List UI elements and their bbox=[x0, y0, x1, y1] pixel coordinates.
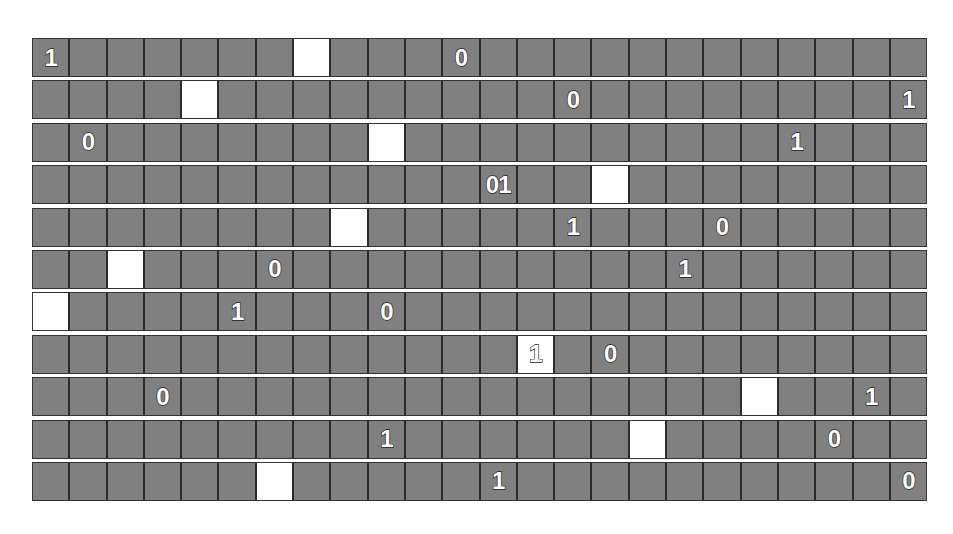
board-cell[interactable] bbox=[816, 166, 853, 203]
board-cell[interactable] bbox=[518, 378, 555, 415]
board-cell[interactable] bbox=[779, 421, 816, 458]
board-cell[interactable]: 0 bbox=[145, 378, 182, 415]
board-cell[interactable] bbox=[33, 336, 70, 373]
board-cell[interactable] bbox=[331, 39, 368, 76]
board-cell[interactable] bbox=[331, 336, 368, 373]
board-cell[interactable]: 0 bbox=[592, 336, 629, 373]
board-cell[interactable] bbox=[331, 421, 368, 458]
board-cell[interactable] bbox=[294, 421, 331, 458]
board-cell[interactable] bbox=[481, 124, 518, 161]
board-cell[interactable] bbox=[182, 39, 219, 76]
board-cell[interactable] bbox=[219, 166, 256, 203]
board-cell[interactable] bbox=[145, 39, 182, 76]
board-cell[interactable] bbox=[108, 421, 145, 458]
board-cell[interactable]: 0 bbox=[70, 124, 107, 161]
board-cell[interactable] bbox=[518, 124, 555, 161]
board-cell[interactable] bbox=[592, 209, 629, 246]
board-cell[interactable] bbox=[219, 378, 256, 415]
board-cell[interactable] bbox=[816, 124, 853, 161]
board-cell[interactable] bbox=[891, 209, 926, 246]
board-cell[interactable] bbox=[667, 463, 704, 500]
board-cell[interactable] bbox=[331, 293, 368, 330]
board-cell-highlighted[interactable] bbox=[33, 293, 70, 330]
board-cell[interactable] bbox=[369, 209, 406, 246]
board-cell[interactable] bbox=[779, 463, 816, 500]
board-cell[interactable] bbox=[369, 39, 406, 76]
board-cell[interactable] bbox=[816, 81, 853, 118]
board-cell[interactable] bbox=[592, 463, 629, 500]
board-cell[interactable] bbox=[481, 209, 518, 246]
board-cell[interactable] bbox=[816, 39, 853, 76]
board-cell[interactable] bbox=[219, 209, 256, 246]
board-cell[interactable] bbox=[182, 166, 219, 203]
board-cell-highlighted[interactable] bbox=[182, 81, 219, 118]
board-cell[interactable]: 0 bbox=[704, 209, 741, 246]
board-cell[interactable] bbox=[70, 209, 107, 246]
board-cell[interactable] bbox=[667, 39, 704, 76]
board-cell[interactable] bbox=[294, 336, 331, 373]
board-cell[interactable] bbox=[70, 166, 107, 203]
board-cell[interactable] bbox=[854, 166, 891, 203]
board-cell[interactable] bbox=[779, 336, 816, 373]
board-cell[interactable] bbox=[145, 209, 182, 246]
board-cell[interactable] bbox=[891, 39, 926, 76]
board-cell[interactable] bbox=[779, 378, 816, 415]
board-cell[interactable] bbox=[145, 421, 182, 458]
board-cell[interactable] bbox=[518, 293, 555, 330]
board-cell[interactable] bbox=[33, 124, 70, 161]
board-cell[interactable] bbox=[294, 209, 331, 246]
board-cell[interactable] bbox=[443, 81, 480, 118]
board-cell[interactable] bbox=[481, 293, 518, 330]
board-cell[interactable] bbox=[145, 293, 182, 330]
board-cell[interactable] bbox=[33, 166, 70, 203]
board-cell[interactable] bbox=[481, 251, 518, 288]
board-cell[interactable] bbox=[854, 81, 891, 118]
board-cell[interactable] bbox=[555, 463, 592, 500]
board-cell[interactable]: 01 bbox=[481, 166, 518, 203]
board-cell[interactable] bbox=[443, 421, 480, 458]
board-cell[interactable] bbox=[630, 463, 667, 500]
board-cell[interactable] bbox=[33, 251, 70, 288]
board-cell[interactable] bbox=[481, 39, 518, 76]
board-cell[interactable] bbox=[518, 166, 555, 203]
board-cell[interactable] bbox=[257, 166, 294, 203]
board-cell[interactable] bbox=[443, 293, 480, 330]
board-cell[interactable] bbox=[182, 209, 219, 246]
board-cell[interactable] bbox=[555, 293, 592, 330]
board-cell[interactable] bbox=[891, 124, 926, 161]
board-cell[interactable] bbox=[891, 293, 926, 330]
board-cell[interactable] bbox=[219, 251, 256, 288]
board-cell[interactable] bbox=[369, 463, 406, 500]
board-cell[interactable] bbox=[481, 378, 518, 415]
board-cell[interactable] bbox=[891, 378, 926, 415]
board-cell[interactable] bbox=[369, 336, 406, 373]
board-cell[interactable] bbox=[294, 81, 331, 118]
board-cell[interactable] bbox=[592, 81, 629, 118]
board-cell[interactable] bbox=[257, 81, 294, 118]
board-cell[interactable] bbox=[742, 421, 779, 458]
board-cell[interactable]: 1 bbox=[891, 81, 926, 118]
board-cell[interactable] bbox=[294, 251, 331, 288]
board-cell[interactable] bbox=[257, 378, 294, 415]
board-cell[interactable] bbox=[704, 81, 741, 118]
board-cell[interactable] bbox=[108, 336, 145, 373]
board-cell[interactable] bbox=[406, 293, 443, 330]
board-cell[interactable] bbox=[294, 293, 331, 330]
board-cell[interactable] bbox=[779, 166, 816, 203]
board-cell[interactable] bbox=[33, 209, 70, 246]
board-cell[interactable] bbox=[481, 81, 518, 118]
board-cell[interactable] bbox=[108, 39, 145, 76]
board-cell[interactable] bbox=[667, 336, 704, 373]
board-cell[interactable] bbox=[145, 81, 182, 118]
board-cell[interactable] bbox=[854, 463, 891, 500]
board-cell[interactable] bbox=[854, 336, 891, 373]
board-cell[interactable] bbox=[443, 336, 480, 373]
board-cell[interactable] bbox=[406, 209, 443, 246]
board-cell[interactable] bbox=[369, 251, 406, 288]
board-cell[interactable] bbox=[816, 336, 853, 373]
board-cell[interactable] bbox=[891, 336, 926, 373]
board-cell[interactable] bbox=[518, 39, 555, 76]
board-cell[interactable] bbox=[555, 166, 592, 203]
board-cell[interactable] bbox=[182, 251, 219, 288]
board-cell[interactable] bbox=[331, 166, 368, 203]
